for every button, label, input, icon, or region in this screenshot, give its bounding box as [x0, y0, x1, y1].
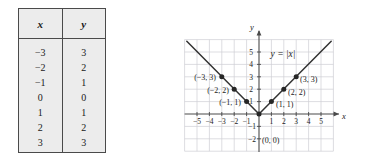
equation-label: y = |x|	[270, 49, 296, 59]
x-tick-label: 1	[270, 117, 274, 126]
point-label: (1, 1)	[276, 100, 294, 109]
table-column-x: −3 −2 −1 0 1 2 3	[19, 39, 63, 152]
data-point	[294, 74, 299, 79]
table-cell-y: 0	[75, 90, 93, 105]
data-point	[269, 99, 274, 104]
table-cell-y: 1	[75, 75, 93, 90]
x-tick-label: 4	[307, 117, 311, 126]
table-cell-x: 1	[31, 105, 49, 120]
table-cell-x: −3	[31, 45, 49, 60]
table-cell-x: −1	[31, 75, 49, 90]
table-cell-y: 1	[75, 105, 93, 120]
table-header-row: x y	[19, 9, 105, 39]
table-cell-x: 0	[31, 90, 49, 105]
point-label: (−1, 1)	[219, 98, 241, 107]
x-tick-label: 3	[294, 117, 298, 126]
point-label: (3, 3)	[300, 75, 318, 84]
data-point	[219, 74, 224, 79]
table-cell-y: 2	[75, 60, 93, 75]
table-header-x: x	[19, 9, 63, 38]
y-tick-label: 3	[249, 73, 253, 82]
data-point	[281, 87, 286, 92]
y-axis-label: y	[249, 22, 254, 32]
y-tick-label: 2	[249, 85, 253, 94]
table-cell-y: 3	[75, 135, 93, 150]
table-column-y: 3 2 1 0 1 2 3	[63, 39, 106, 152]
point-label: (−2, 2)	[207, 86, 229, 95]
x-axis-label: x	[341, 111, 346, 121]
y-tick-label: −2	[248, 135, 256, 144]
xy-value-table: x y −3 −2 −1 0 1 2 3 3 2 1 0 1 2 3	[18, 8, 106, 153]
x-tick-label: −2	[230, 117, 238, 126]
graph-svg: x y −5 −4 −3 −2 −1 1 2	[176, 4, 376, 162]
x-tick-label: −4	[205, 117, 213, 126]
table-header-y: y	[63, 9, 106, 38]
data-point	[257, 112, 262, 117]
x-tick-label: 5	[319, 117, 323, 126]
table-cell-x: 3	[31, 135, 49, 150]
y-axis-arrow-icon	[257, 30, 262, 36]
x-tick-label: 2	[282, 117, 286, 126]
point-label: (−3, 3)	[194, 73, 216, 82]
table-cell-x: −2	[31, 60, 49, 75]
point-label: (0, 0)	[262, 136, 280, 145]
absolute-value-graph: x y −5 −4 −3 −2 −1 1 2	[176, 4, 376, 162]
y-tick-label: 5	[249, 48, 253, 57]
table-cell-y: 2	[75, 120, 93, 135]
x-tick-label: −5	[193, 117, 201, 126]
y-tick-label: −1	[248, 122, 256, 131]
table-cell-x: 2	[31, 120, 49, 135]
x-tick-label: −3	[218, 117, 226, 126]
x-axis-arrow-icon	[334, 112, 340, 117]
data-point	[244, 99, 249, 104]
table-cell-y: 3	[75, 45, 93, 60]
point-label: (2, 2)	[288, 88, 306, 97]
y-tick-label: 4	[249, 60, 253, 69]
table-body: −3 −2 −1 0 1 2 3 3 2 1 0 1 2 3	[19, 39, 105, 152]
data-point	[232, 87, 237, 92]
